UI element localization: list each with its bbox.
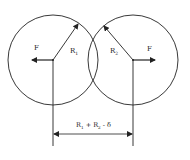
contact-diagram: F F R1 R2 R1 + R2 - δ	[0, 0, 190, 160]
radius-label-r1: R1	[70, 47, 78, 56]
radius-label-r2: R2	[110, 47, 118, 56]
force-label-right: F	[147, 45, 152, 53]
dimension-label: R1 + R2 - δ	[76, 121, 111, 130]
radius-line-r2	[104, 26, 133, 60]
diagram-canvas: F F R1 R2 R1 + R2 - δ	[0, 0, 190, 160]
force-label-left: F	[34, 44, 39, 52]
